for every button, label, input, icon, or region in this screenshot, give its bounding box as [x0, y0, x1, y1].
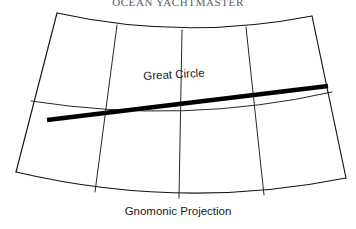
meridian-3-line [246, 27, 264, 195]
gnomonic-projection-figure: OCEAN YACHTMASTER Great Circle Gnomonic … [0, 0, 356, 229]
parallel-top-line [57, 13, 312, 28]
meridian-2-line [179, 30, 182, 198]
parallel-bottom-line [16, 172, 346, 193]
meridian-right-edge-line [312, 16, 346, 178]
great-circle-line [47, 86, 328, 120]
graticule-diagram [0, 0, 356, 229]
meridian-left-edge-line [16, 13, 57, 172]
figure-caption: Gnomonic Projection [0, 205, 356, 217]
